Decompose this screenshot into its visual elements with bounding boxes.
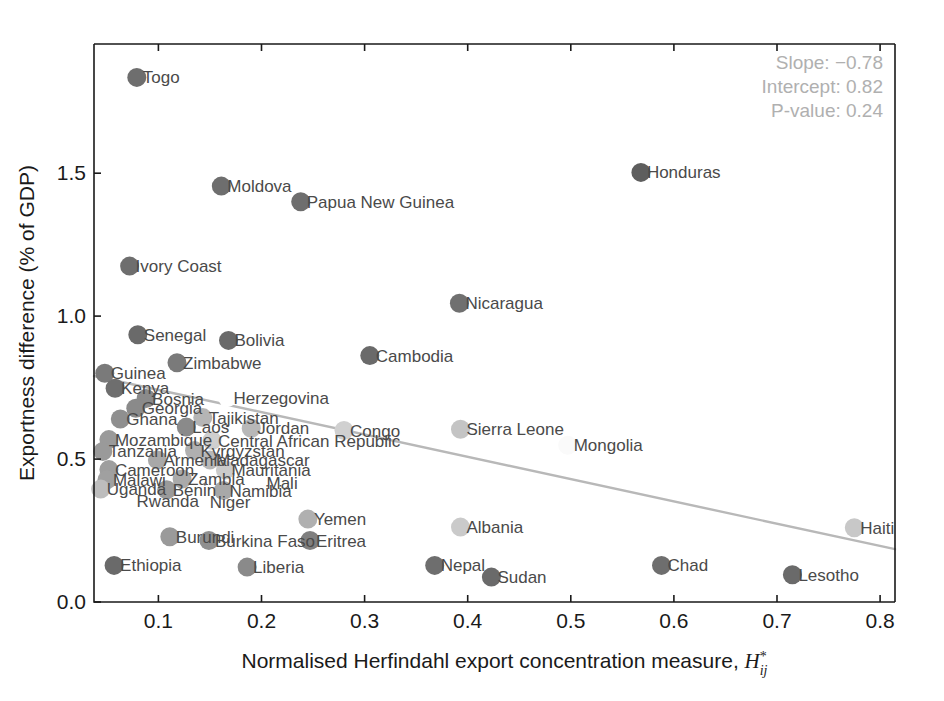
data-point-label: Cambodia <box>376 347 454 366</box>
data-point-label: Sierra Leone <box>467 420 564 439</box>
data-point-label: Sudan <box>497 568 546 587</box>
data-point-label: Liberia <box>253 558 305 577</box>
data-point-label: Zimbabwe <box>183 354 261 373</box>
data-point-label: Nicaragua <box>465 294 543 313</box>
y-axis-tick-label: 1.5 <box>57 161 86 184</box>
x-axis-tick-label: 0.7 <box>762 609 791 632</box>
y-axis-title: Exportness difference (% of GDP) <box>15 165 38 481</box>
plot-canvas: TogoMoldovaPapua New GuineaHondurasIvory… <box>0 0 944 701</box>
x-axis-tick-label: 0.2 <box>247 609 276 632</box>
data-point-label: Papua New Guinea <box>307 193 455 212</box>
slope-annotation: Slope: −0.78 <box>776 52 883 73</box>
data-point-label: Ghana <box>126 410 178 429</box>
data-point-label: Eritrea <box>316 532 367 551</box>
x-axis-tick-label: 0.1 <box>144 609 173 632</box>
data-point-label: Ivory Coast <box>136 257 222 276</box>
regression-stats-annotation: Slope: −0.78Intercept: 0.82P-value: 0.24 <box>762 52 884 121</box>
data-point-label: Mongolia <box>574 436 644 455</box>
pvalue-annotation: P-value: 0.24 <box>771 100 883 121</box>
x-axis-title: Normalised Herfindahl export concentrati… <box>241 649 767 678</box>
data-point-label: Haiti <box>860 519 894 538</box>
y-axis-tick-label: 1.0 <box>57 304 86 327</box>
data-point-label: Bolivia <box>235 331 286 350</box>
data-point-label: Burkina Faso <box>215 532 315 551</box>
data-point-label: Chad <box>668 556 709 575</box>
data-point-label: Lesotho <box>798 566 859 585</box>
data-point-label: Senegal <box>144 326 206 345</box>
x-axis-tick-label: 0.8 <box>865 609 894 632</box>
x-axis-tick-label: 0.3 <box>350 609 379 632</box>
x-axis-tick-label: 0.6 <box>659 609 688 632</box>
data-point-label: Moldova <box>227 177 292 196</box>
data-point-label: Togo <box>143 68 180 87</box>
scatter-plot-figure: TogoMoldovaPapua New GuineaHondurasIvory… <box>0 0 944 701</box>
data-point-label: Ethiopia <box>120 556 182 575</box>
data-point-label: Albania <box>467 518 524 537</box>
data-point-label: Niger <box>210 493 251 512</box>
x-axis-tick-label: 0.4 <box>453 609 483 632</box>
y-axis-tick-label: 0.5 <box>57 447 86 470</box>
data-point-label: Herzegovina <box>234 389 330 408</box>
data-point-label: Honduras <box>647 163 721 182</box>
data-markers-group: TogoMoldovaPapua New GuineaHondurasIvory… <box>91 68 864 587</box>
data-point-label: Rwanda <box>137 492 200 511</box>
data-point-labels-group: TogoMoldovaPapua New GuineaHondurasIvory… <box>107 68 895 587</box>
data-point-label: Yemen <box>314 510 366 529</box>
intercept-annotation: Intercept: 0.82 <box>762 76 883 97</box>
y-axis-tick-label: 0.0 <box>57 590 86 613</box>
data-point-label: Nepal <box>441 556 485 575</box>
x-axis-tick-label: 0.5 <box>556 609 585 632</box>
